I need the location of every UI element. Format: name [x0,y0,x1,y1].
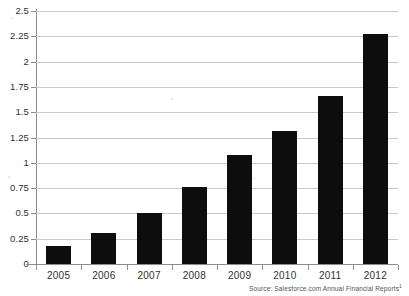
source-note-text: Source: Salesforce.com Annual Financial … [249,285,399,292]
bar-2005 [46,246,71,264]
gridline [36,87,398,88]
source-footnote-marker: 1 [399,283,402,289]
x-axis-tick [127,265,128,270]
y-axis-tick [31,112,36,113]
bar-2010 [272,131,297,264]
x-axis-tick [36,265,37,270]
y-axis-tick-label: 0.75 [0,183,29,193]
gridline [36,188,398,189]
y-axis-tick [31,138,36,139]
gridline [36,163,398,164]
x-axis-tick-label: 2010 [263,270,307,282]
y-axis-tick [31,188,36,189]
y-axis-tick-label: 0.25 [0,234,29,244]
x-axis-tick-label: 2005 [37,270,81,282]
y-axis-tick-label: 1 [0,158,29,168]
scan-speckle [171,98,173,100]
scan-speckle [8,176,10,178]
x-axis-tick [262,265,263,270]
y-axis-tick-label: 0 [0,259,29,269]
gridline [36,62,398,63]
y-axis-tick-label: 1.5 [0,107,29,117]
gridline [36,138,398,139]
source-note: Source: Salesforce.com Annual Financial … [249,282,402,293]
scan-speckle [253,178,255,179]
bar-2012 [363,34,388,264]
y-axis-tick-label: 2.25 [0,31,29,41]
x-axis-tick [398,265,399,270]
x-axis-tick [308,265,309,270]
y-axis-tick [31,36,36,37]
gridline [36,112,398,113]
x-axis-tick-label: 2007 [127,270,171,282]
y-axis-tick [31,213,36,214]
y-axis-tick [31,239,36,240]
y-axis-tick-label: 2 [0,57,29,67]
y-axis-labels: 2.52.2521.751.51.2510.750.50.250 [0,0,29,296]
x-axis-tick [217,265,218,270]
gridline [36,213,398,214]
bar-2007 [137,213,162,264]
bar-2008 [182,187,207,264]
gridline [36,11,398,12]
x-axis-tick-label: 2006 [82,270,126,282]
bar-2009 [227,155,252,264]
bar-2006 [91,233,116,264]
x-axis-tick-label: 2008 [172,270,216,282]
x-axis-tick-label: 2012 [353,270,397,282]
bar-chart: 2.52.2521.751.51.2510.750.50.250 Source:… [0,0,409,296]
y-axis-tick-label: 0.5 [0,208,29,218]
y-axis-tick-label: 1.75 [0,82,29,92]
y-axis-tick [31,11,36,12]
x-axis-tick-label: 2009 [218,270,262,282]
bar-2011 [318,96,343,264]
x-axis-tick-label: 2011 [308,270,352,282]
y-axis-tick-label: 2.5 [0,6,29,16]
plot-area [36,11,398,264]
x-axis-tick [172,265,173,270]
scan-speckle [11,17,13,19]
x-axis-tick [81,265,82,270]
y-axis-tick-label: 1.25 [0,133,29,143]
y-axis-tick [31,87,36,88]
gridline [36,36,398,37]
x-axis-tick [353,265,354,270]
y-axis-tick [31,62,36,63]
y-axis-tick [31,163,36,164]
